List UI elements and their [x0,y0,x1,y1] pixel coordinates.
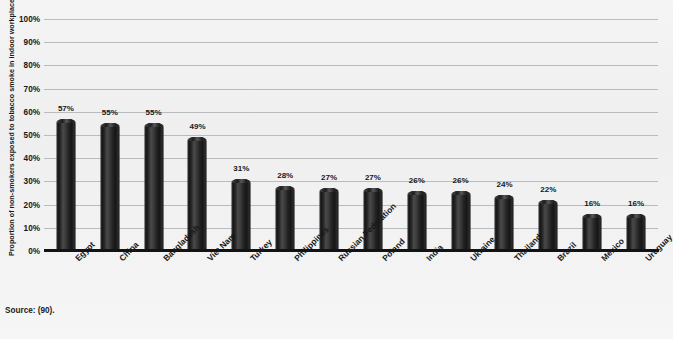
bar-slot: 28% [263,19,307,251]
bar-value-label: 27% [365,173,381,182]
bar-slot: 27% [307,19,351,251]
y-tick-label: 50% [0,131,40,140]
bar-slot: 26% [395,19,439,251]
y-tick-label: 90% [0,38,40,47]
bar[interactable] [495,195,514,251]
x-tick-label: Brazil [555,256,562,263]
y-tick-label: 20% [0,200,40,209]
x-tick-label: Poland [380,256,387,263]
y-tick-label: 40% [0,154,40,163]
bar[interactable] [56,119,75,251]
y-tick-label: 60% [0,107,40,116]
bar[interactable] [144,123,163,251]
x-tick-label: Philippines [292,256,299,263]
bar-slot: 55% [132,19,176,251]
x-tick-label: Turkey [248,256,255,263]
bar[interactable] [539,200,558,251]
bar-value-label: 57% [58,104,74,113]
bar-value-label: 28% [277,171,293,180]
bar-slot: 49% [176,19,220,251]
y-tick-label: 100% [0,15,40,24]
y-tick-label: 30% [0,177,40,186]
bar-value-label: 49% [189,122,205,131]
x-tick-label: India [424,256,431,263]
bar[interactable] [407,191,426,251]
bar-slot: 24% [483,19,527,251]
x-tick-label: Ukraine [468,256,475,263]
y-tick-label: 70% [0,84,40,93]
bar-value-label: 16% [628,199,644,208]
bar-slot: 16% [570,19,614,251]
bar-slot: 31% [219,19,263,251]
y-tick-label: 10% [0,223,40,232]
bar[interactable] [320,188,339,251]
bar-value-label: 26% [409,176,425,185]
x-tick-label: Egypt [73,256,80,263]
bar-slot: 57% [44,19,88,251]
bar-value-label: 55% [146,108,162,117]
plot-area: 57%55%55%49%31%28%27%27%26%26%24%22%16%1… [44,19,658,251]
y-tick-label: 80% [0,61,40,70]
bar[interactable] [583,214,602,251]
bar-value-label: 55% [102,108,118,117]
x-tick-label: Viet Nam [205,256,212,263]
x-tick-label: Thailand [512,256,519,263]
bar-value-label: 26% [453,176,469,185]
x-tick-label: China [117,256,124,263]
bar[interactable] [276,186,295,251]
x-tick-label: Uruguay [643,256,650,263]
bar-value-label: 31% [233,164,249,173]
bar[interactable] [100,123,119,251]
bar-chart-figure: Proportion of non-smokers exposed to tob… [0,0,673,339]
bar-value-label: 27% [321,173,337,182]
bar[interactable] [451,191,470,251]
x-tick-label: Russian Federation [336,256,343,263]
x-tick-label: Mexico [599,256,606,263]
bar-value-label: 24% [496,180,512,189]
bar-value-label: 22% [540,185,556,194]
y-tick-label: 0% [0,247,40,256]
bar-slot: 22% [526,19,570,251]
source-note: Source: (90). [5,306,55,315]
bar-slot: 16% [614,19,658,251]
bar-slot: 26% [439,19,483,251]
bar[interactable] [627,214,646,251]
bar-value-label: 16% [584,199,600,208]
bar-slot: 55% [88,19,132,251]
x-tick-label: Bangladesh [161,256,168,263]
